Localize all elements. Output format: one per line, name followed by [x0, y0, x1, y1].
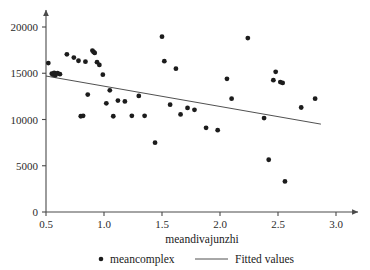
- y-tick-label: 20000: [11, 21, 39, 33]
- data-point: [64, 52, 69, 57]
- data-point: [245, 36, 250, 41]
- data-point: [280, 81, 285, 86]
- data-point: [76, 58, 81, 63]
- data-point: [85, 92, 90, 97]
- x-tick-label: 1.0: [97, 218, 111, 230]
- data-point: [185, 106, 190, 111]
- y-tick-label: 0: [33, 206, 39, 218]
- data-point: [129, 113, 134, 118]
- chart-legend: meancomplex Fitted values: [99, 253, 295, 266]
- legend-label-fitted-values: Fitted values: [235, 253, 295, 265]
- data-point: [299, 105, 304, 110]
- axis-group: [46, 10, 358, 212]
- data-point: [178, 112, 183, 117]
- data-point: [81, 113, 86, 118]
- data-point: [122, 99, 127, 104]
- data-point: [313, 96, 318, 101]
- data-points-layer: [46, 34, 318, 184]
- x-tick-label: 3.0: [329, 218, 343, 230]
- x-tick-label: 2.0: [213, 218, 227, 230]
- data-point: [71, 55, 76, 60]
- data-point: [104, 101, 109, 106]
- data-point: [116, 98, 121, 103]
- data-point: [83, 59, 88, 64]
- x-tick-label: 2.5: [271, 218, 285, 230]
- x-tick-label: 1.5: [155, 218, 169, 230]
- data-point: [58, 72, 63, 77]
- data-point: [92, 51, 97, 56]
- x-axis-title: meandivajunzhi: [165, 233, 238, 246]
- data-point: [271, 78, 276, 83]
- data-point: [162, 59, 167, 64]
- data-point: [142, 113, 147, 118]
- legend-label-meancomplex: meancomplex: [110, 253, 175, 266]
- x-tick-label: 0.5: [39, 218, 53, 230]
- data-point: [97, 63, 102, 68]
- data-point: [168, 102, 173, 107]
- data-point: [283, 179, 288, 184]
- data-point: [266, 157, 271, 162]
- legend-marker-meancomplex: [99, 257, 104, 262]
- data-point: [215, 128, 220, 133]
- y-tick-label: 15000: [11, 67, 39, 79]
- y-axis-ticks: 05000100001500020000: [11, 21, 47, 218]
- data-point: [153, 140, 158, 145]
- data-point: [273, 69, 278, 74]
- data-point: [136, 94, 141, 99]
- data-point: [192, 107, 197, 112]
- data-point: [160, 34, 165, 39]
- data-point: [107, 88, 112, 93]
- data-point: [46, 61, 51, 66]
- data-point: [174, 66, 179, 71]
- data-point: [111, 114, 116, 119]
- data-point: [262, 116, 267, 121]
- x-axis-ticks: 0.51.01.52.02.53.0: [39, 212, 343, 230]
- data-point: [204, 125, 209, 130]
- data-point: [229, 96, 234, 101]
- data-point: [225, 76, 230, 81]
- chart-canvas: 05000100001500020000 0.51.01.52.02.53.0 …: [0, 0, 370, 270]
- y-tick-label: 10000: [11, 114, 39, 126]
- data-point: [100, 72, 105, 77]
- y-tick-label: 5000: [16, 160, 39, 172]
- scatter-plot-figure: 05000100001500020000 0.51.01.52.02.53.0 …: [0, 0, 370, 270]
